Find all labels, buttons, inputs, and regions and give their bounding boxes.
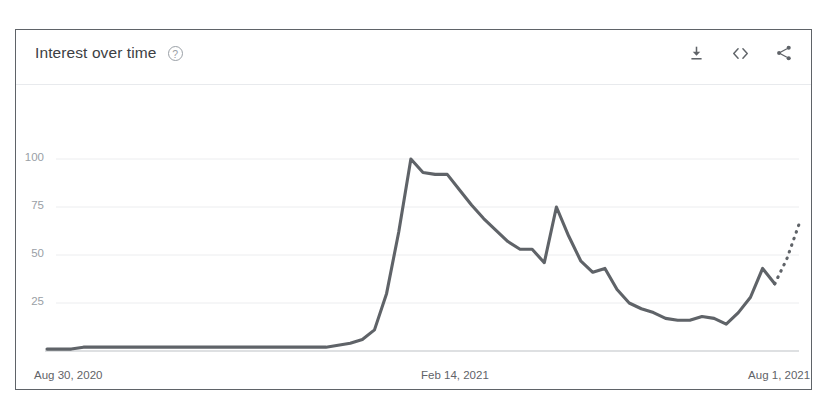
y-axis-tick-label: 50: [10, 247, 44, 259]
page-title: Interest over time: [35, 44, 157, 62]
download-icon[interactable]: [684, 41, 708, 65]
card-actions: [684, 41, 796, 65]
x-axis-tick-label: Aug 1, 2021: [748, 369, 810, 381]
interest-line-chart: [16, 85, 811, 389]
screenshot-root: Interest over time ?: [0, 0, 840, 404]
chart-plot-area: 255075100 Aug 30, 2020Feb 14, 2021Aug 1,…: [16, 85, 811, 389]
series-line-interest-partial: [775, 224, 799, 284]
y-axis-tick-label: 75: [10, 199, 44, 211]
embed-code-icon[interactable]: [728, 41, 752, 65]
series-line-interest: [47, 159, 775, 349]
share-icon[interactable]: [772, 41, 796, 65]
y-axis-tick-label: 100: [10, 151, 44, 163]
card-header: Interest over time ?: [16, 30, 811, 85]
card-title-group: Interest over time ?: [35, 44, 183, 62]
x-axis-tick-label: Feb 14, 2021: [421, 369, 489, 381]
x-axis-tick-label: Aug 30, 2020: [34, 369, 102, 381]
y-axis-tick-label: 25: [10, 295, 44, 307]
interest-over-time-card: Interest over time ?: [15, 29, 812, 390]
help-circle-icon[interactable]: ?: [168, 46, 183, 61]
